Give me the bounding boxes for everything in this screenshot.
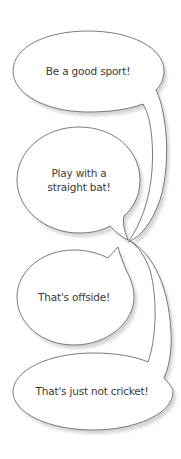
bubble-4-text: That's just not cricket! xyxy=(36,384,149,398)
bubble-3-text: That's offside! xyxy=(38,290,110,304)
bubble-3-line-1: That's offside! xyxy=(38,290,110,304)
bubble-2-line-1: Play with a xyxy=(48,166,111,180)
bubble-1-text: Be a good sport! xyxy=(46,64,130,78)
bubble-2-line-2: straight bat! xyxy=(48,180,111,194)
speech-bubble-diagram: Be a good sport! Play with a straight ba… xyxy=(0,0,181,459)
bubble-2-text: Play with a straight bat! xyxy=(48,166,111,194)
bubble-4-line-1: That's just not cricket! xyxy=(36,384,149,398)
bubble-1-line-1: Be a good sport! xyxy=(46,64,130,78)
